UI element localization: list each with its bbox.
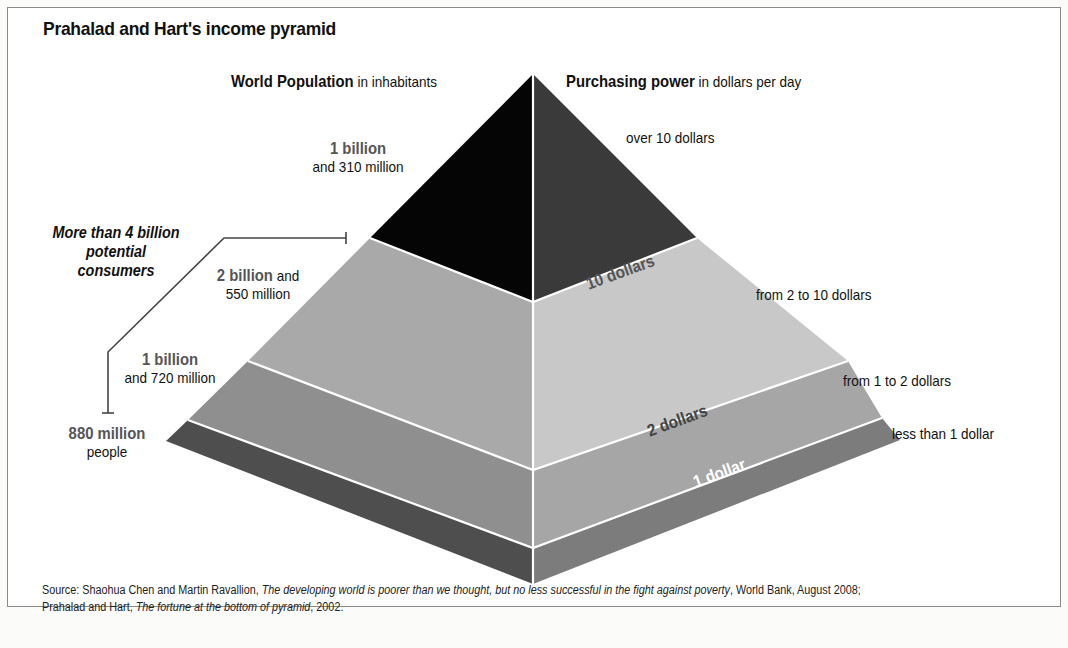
power-header-bold: Purchasing power <box>566 72 695 90</box>
population-tier2-rest: 550 million <box>202 285 314 302</box>
population-axis-header: World Population in inhabitants <box>231 72 437 91</box>
income-pyramid <box>0 0 1068 648</box>
power-axis-header: Purchasing power in dollars per day <box>566 72 801 91</box>
population-tier4-bold: 880 million <box>58 424 157 443</box>
power-tier4: less than 1 dollar <box>892 425 994 442</box>
source-title2: The fortune at the bottom of pyramid <box>136 600 311 614</box>
source-mid: , World Bank, August 2008; <box>730 583 861 597</box>
callout-line1: More than 4 billion <box>44 223 188 242</box>
source-note: Source: Shaohua Chen and Martin Ravallio… <box>42 582 861 616</box>
population-tier1-rest: and 310 million <box>304 158 412 175</box>
population-tier1: 1 billion and 310 million <box>304 139 412 175</box>
population-header-bold: World Population <box>231 72 354 90</box>
population-tier1-bold: 1 billion <box>304 139 412 158</box>
potential-consumers-callout: More than 4 billion potential consumers <box>44 223 188 280</box>
population-tier3-bold: 1 billion <box>114 350 226 369</box>
population-tier3-rest: and 720 million <box>114 369 226 386</box>
power-tier3: from 1 to 2 dollars <box>843 372 951 389</box>
population-tier2: 2 billion and 550 million <box>202 266 314 302</box>
population-tier2-bold: 2 billion <box>217 266 273 284</box>
population-tier4: 880 million people <box>58 424 157 460</box>
population-tier4-rest: people <box>58 443 157 460</box>
source-line2-suffix: , 2002. <box>310 600 343 614</box>
callout-line3: consumers <box>44 261 188 280</box>
power-header-rest: in dollars per day <box>695 73 802 90</box>
power-tier2: from 2 to 10 dollars <box>756 286 872 303</box>
source-prefix: Source: Shaohua Chen and Martin Ravallio… <box>42 583 262 597</box>
callout-line2: potential <box>44 242 188 261</box>
population-tier3: 1 billion and 720 million <box>114 350 226 386</box>
population-header-rest: in inhabitants <box>354 73 437 90</box>
population-tier2-and: and <box>273 267 299 284</box>
source-title1: The developing world is poorer than we t… <box>262 583 730 597</box>
power-tier1: over 10 dollars <box>626 129 715 146</box>
source-line2-prefix: Prahalad and Hart, <box>42 600 136 614</box>
